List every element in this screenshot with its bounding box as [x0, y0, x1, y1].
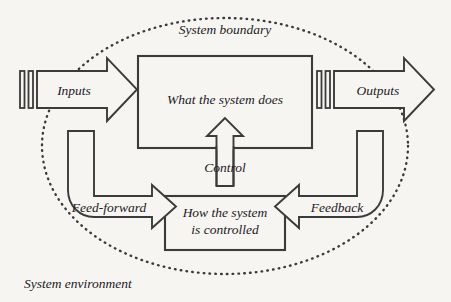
outputs-tail-bar-2 — [326, 71, 331, 108]
system-control-label-line2: is controlled — [191, 222, 259, 237]
inputs-tail-bar-1 — [20, 71, 25, 108]
feed-forward-label: Feed-forward — [71, 200, 147, 215]
control-label: Control — [204, 160, 246, 175]
control-arrow-crossing-mask — [218, 146, 233, 150]
system-environment-label: System environment — [24, 276, 133, 291]
outputs-label: Outputs — [357, 83, 400, 98]
system-boundary-label: System boundary — [179, 22, 272, 37]
outputs-tail-bar-1 — [317, 71, 322, 108]
inputs-tail-bar-2 — [29, 71, 34, 108]
inputs-label: Inputs — [56, 83, 91, 98]
diagram-canvas: System boundary Inputs Outputs What the … — [0, 0, 451, 302]
feedback-label: Feedback — [310, 200, 364, 215]
system-diagram: System boundary Inputs Outputs What the … — [0, 0, 451, 302]
system-control-label-line1: How the system — [182, 205, 268, 220]
system-process-label: What the system does — [167, 92, 283, 107]
